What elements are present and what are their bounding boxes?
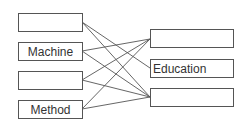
right-box-education: Education [150, 59, 234, 78]
left-box-4-label: Method [30, 103, 70, 117]
right-box-2-label: Education [153, 62, 206, 76]
left-box-1 [18, 13, 83, 32]
left-box-machine: Machine [18, 42, 83, 61]
left-box-2-label: Machine [28, 45, 73, 59]
line-l3-r3 [82, 80, 150, 97]
left-box-method: Method [18, 100, 83, 119]
right-box-3 [150, 88, 234, 107]
right-box-1 [150, 29, 234, 48]
left-box-3 [18, 71, 83, 90]
